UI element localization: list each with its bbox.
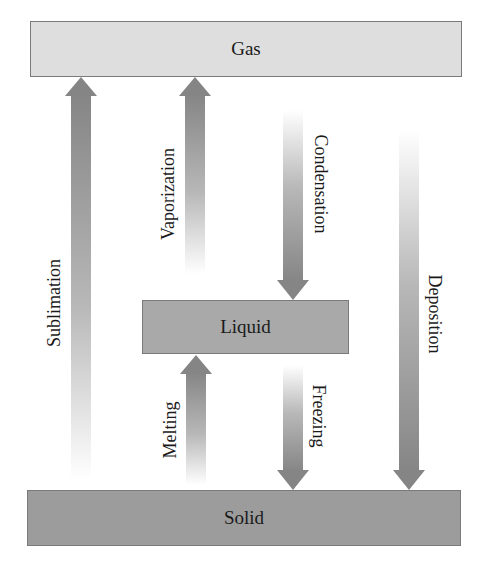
melting-label: Melting xyxy=(160,395,180,465)
deposition-label: Deposition xyxy=(425,267,445,361)
arrows-layer xyxy=(0,0,478,566)
solid-state-box: Solid xyxy=(27,490,461,546)
liquid-state-box: Liquid xyxy=(142,300,349,354)
solid-label: Solid xyxy=(224,507,264,529)
condensation-arrow xyxy=(277,110,309,300)
liquid-label: Liquid xyxy=(220,316,271,338)
gas-state-box: Gas xyxy=(30,21,462,77)
sublimation-arrow xyxy=(65,77,97,480)
condensation-label: Condensation xyxy=(311,125,331,243)
deposition-arrow xyxy=(393,130,425,490)
freezing-arrow xyxy=(277,365,309,490)
sublimation-label: Sublimation xyxy=(44,253,64,353)
gas-label: Gas xyxy=(231,38,261,60)
vaporization-arrow xyxy=(179,77,211,274)
vaporization-label: Vaporization xyxy=(158,142,178,246)
freezing-label: Freezing xyxy=(309,379,329,453)
melting-arrow xyxy=(180,355,212,485)
